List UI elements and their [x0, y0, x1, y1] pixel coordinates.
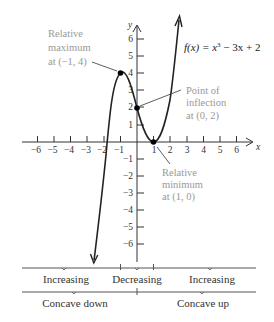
svg-text:−6: −6: [31, 145, 41, 155]
monotonic-interval-bar: Increasing Decreasing Increasing: [22, 264, 256, 285]
interval-decreasing: Decreasing: [112, 273, 162, 285]
inflection-point: [134, 105, 140, 111]
svg-text:4: 4: [201, 145, 206, 155]
y-axis-label: y: [127, 20, 133, 30]
svg-text:−3: −3: [81, 145, 91, 155]
svg-text:5: 5: [218, 145, 223, 155]
svg-text:3: 3: [185, 145, 190, 155]
interval-increasing-left: Increasing: [43, 273, 89, 285]
svg-text:6: 6: [128, 34, 133, 44]
svg-text:4: 4: [128, 68, 133, 78]
svg-text:−5: −5: [47, 145, 57, 155]
svg-text:2: 2: [168, 145, 173, 155]
relative-maximum-annotation: Relative maximum at (−1, 4): [48, 28, 117, 71]
relative-minimum-annotation: Relative minimum at (1, 0): [157, 147, 203, 203]
function-graph: x y −6 −5 −4 −3 −2 −1 1 2 3 4 5 6: [0, 0, 274, 322]
svg-text:6: 6: [234, 145, 239, 155]
svg-text:2: 2: [128, 102, 133, 112]
svg-text:Relative: Relative: [162, 167, 197, 178]
svg-text:1: 1: [128, 120, 133, 130]
interval-increasing-right: Increasing: [189, 273, 235, 285]
inflection-annotation: Point of inflection at (0, 2): [140, 85, 227, 122]
svg-text:Point of: Point of: [186, 85, 220, 96]
svg-text:−2: −2: [123, 171, 133, 181]
svg-text:inflection: inflection: [186, 97, 227, 108]
svg-text:maximum: maximum: [48, 42, 91, 53]
svg-text:−6: −6: [123, 239, 133, 249]
relative-minimum-point: [151, 139, 157, 145]
svg-text:−3: −3: [123, 188, 133, 198]
svg-text:5: 5: [128, 51, 133, 61]
svg-text:at (−1, 4): at (−1, 4): [48, 56, 87, 68]
svg-text:−1: −1: [123, 154, 133, 164]
function-label: f(x) = x3 − 3x + 2: [184, 41, 261, 54]
svg-text:at (1, 0): at (1, 0): [162, 191, 195, 203]
relative-maximum-point: [118, 70, 124, 76]
x-tick-labels: −6 −5 −4 −3 −2 −1 1 2 3 4 5 6: [31, 145, 239, 155]
svg-text:−4: −4: [123, 205, 133, 215]
svg-text:at (0, 2): at (0, 2): [186, 110, 219, 122]
concavity-interval-bar: Concave down Concave up: [22, 288, 256, 309]
svg-text:Relative: Relative: [48, 28, 83, 39]
svg-text:1: 1: [152, 145, 157, 155]
x-axis-label: x: [255, 142, 261, 152]
svg-text:−5: −5: [123, 222, 133, 232]
interval-concave-up: Concave up: [177, 297, 230, 309]
interval-concave-down: Concave down: [42, 297, 108, 309]
svg-text:−4: −4: [64, 145, 74, 155]
svg-text:minimum: minimum: [162, 179, 203, 190]
